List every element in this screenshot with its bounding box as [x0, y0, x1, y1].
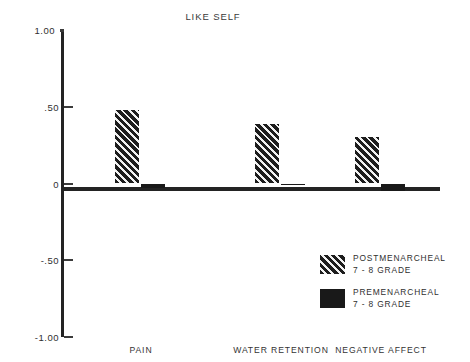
- bar: [281, 184, 305, 185]
- bar: [381, 184, 405, 192]
- x-axis-label: NEGATIVE AFFECT: [335, 345, 427, 355]
- bar: [355, 137, 379, 183]
- legend-label-line2: 7 - 8 GRADE: [353, 265, 446, 277]
- bar: [141, 184, 165, 189]
- bar: [255, 124, 279, 184]
- legend-swatch-solid-icon: [320, 289, 345, 308]
- y-tick-label: 0: [53, 178, 59, 189]
- legend-label-line1: PREMENARCHEAL: [353, 287, 439, 299]
- y-tick-label: -.50: [41, 255, 59, 266]
- chart-legend: POSTMENARCHEAL 7 - 8 GRADE PREMENARCHEAL…: [320, 253, 470, 321]
- bar: [115, 110, 139, 184]
- x-axis-label: WATER RETENTION: [233, 345, 329, 355]
- y-tick-mark: -.50: [64, 259, 73, 261]
- y-tick-mark: .50: [64, 106, 73, 108]
- y-tick-label: .50: [44, 101, 59, 112]
- y-tick-mark: 1.00: [60, 29, 64, 32]
- y-tick-label: 1.00: [35, 25, 56, 36]
- chart-title: LIKE SELF: [0, 11, 448, 22]
- legend-label-premenarcheal: PREMENARCHEAL 7 - 8 GRADE: [353, 287, 439, 310]
- chart-figure: LIKE SELF 1.00.500-.50-1.00 PAINWATER RE…: [0, 0, 470, 362]
- legend-label-line2: 7 - 8 GRADE: [353, 299, 439, 311]
- x-axis-label: PAIN: [129, 345, 152, 355]
- legend-item-premenarcheal: PREMENARCHEAL 7 - 8 GRADE: [320, 287, 470, 315]
- legend-label-line1: POSTMENARCHEAL: [353, 253, 446, 265]
- y-tick-label: -1.00: [35, 332, 59, 343]
- legend-swatch-hatch-icon: [320, 255, 345, 274]
- y-tick-mark: 0: [64, 183, 73, 185]
- legend-item-postmenarcheal: POSTMENARCHEAL 7 - 8 GRADE: [320, 253, 470, 281]
- legend-label-postmenarcheal: POSTMENARCHEAL 7 - 8 GRADE: [353, 253, 446, 276]
- y-tick-mark: -1.00: [64, 336, 73, 338]
